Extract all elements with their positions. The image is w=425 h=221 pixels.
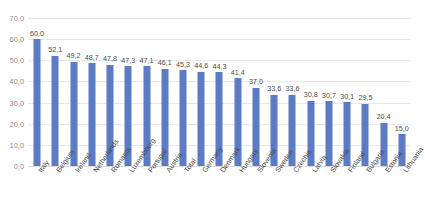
x-axis-tick: Bulgaria bbox=[356, 168, 374, 221]
bar-slot: 15,0 bbox=[393, 18, 411, 166]
bar[interactable] bbox=[198, 72, 205, 166]
bar-slot: 33,6 bbox=[283, 18, 301, 166]
x-axis-category-labels: ItalyBelgiumIrelandNetherlandsRomaniaLux… bbox=[28, 168, 411, 221]
chart-title bbox=[0, 0, 414, 11]
bar-value-label: 37,0 bbox=[249, 77, 263, 86]
bar-value-label: 46,1 bbox=[158, 58, 172, 67]
bar[interactable] bbox=[34, 39, 41, 166]
bar-slot: 44,6 bbox=[192, 18, 210, 166]
bar-slot: 20,4 bbox=[375, 18, 393, 166]
x-axis-tick: Netherlands bbox=[83, 168, 101, 221]
x-axis-tick: Belgium bbox=[46, 168, 64, 221]
bar-slot: 30,7 bbox=[320, 18, 338, 166]
bar-slot: 30,8 bbox=[302, 18, 320, 166]
y-axis-tick-label: 40,0 bbox=[0, 77, 24, 86]
y-axis-tick-label: 20,0 bbox=[0, 119, 24, 128]
bar-value-label: 60,0 bbox=[30, 29, 44, 38]
bar-value-label: 29,5 bbox=[358, 93, 372, 102]
bar-series: 60,052,149,248,747,847,347,146,145,344,6… bbox=[28, 18, 411, 166]
bar-value-label: 45,3 bbox=[176, 60, 190, 69]
x-axis-tick: Hungary bbox=[229, 168, 247, 221]
bar-value-label: 20,4 bbox=[377, 112, 391, 121]
bar-slot: 60,0 bbox=[28, 18, 46, 166]
bar-slot: 41,4 bbox=[229, 18, 247, 166]
bar-value-label: 47,8 bbox=[103, 54, 117, 63]
bar[interactable] bbox=[52, 56, 59, 166]
x-axis-tick: Luxembourg bbox=[119, 168, 137, 221]
bar-value-label: 30,1 bbox=[340, 92, 354, 101]
bar-value-label: 47,3 bbox=[121, 56, 135, 65]
y-axis-tick-label: 30,0 bbox=[0, 98, 24, 107]
bar-value-label: 47,1 bbox=[140, 56, 154, 65]
bar[interactable] bbox=[88, 63, 95, 166]
x-axis-tick: Ireland bbox=[64, 168, 82, 221]
bar-slot: 47,3 bbox=[119, 18, 137, 166]
x-axis-tick: Slovakia bbox=[320, 168, 338, 221]
x-axis-tick: Finland bbox=[338, 168, 356, 221]
x-axis-tick: Sweden bbox=[265, 168, 283, 221]
bar-value-label: 44,3 bbox=[212, 62, 226, 71]
x-axis-tick: Estonia bbox=[375, 168, 393, 221]
x-axis-tick: Italy bbox=[28, 168, 46, 221]
plot-area: 60,052,149,248,747,847,347,146,145,344,6… bbox=[28, 18, 411, 166]
bar-value-label: 49,2 bbox=[67, 51, 81, 60]
bar-value-label: 44,6 bbox=[194, 61, 208, 70]
bar-value-label: 30,8 bbox=[304, 90, 318, 99]
x-axis-tick: Total bbox=[174, 168, 192, 221]
bar-value-label: 33,6 bbox=[267, 84, 281, 93]
x-axis-tick: Germany bbox=[192, 168, 210, 221]
bar-slot: 44,3 bbox=[210, 18, 228, 166]
y-axis-tick-label: 10,0 bbox=[0, 140, 24, 149]
bar[interactable] bbox=[180, 70, 187, 166]
y-axis-tick-label: 0,0 bbox=[0, 162, 24, 171]
bar-slot: 49,2 bbox=[64, 18, 82, 166]
x-axis-tick: Romania bbox=[101, 168, 119, 221]
bar-slot: 48,7 bbox=[83, 18, 101, 166]
y-axis-tick-label: 60,0 bbox=[0, 35, 24, 44]
bar-slot: 29,5 bbox=[356, 18, 374, 166]
bar-value-label: 33,6 bbox=[285, 84, 299, 93]
bar-slot: 33,6 bbox=[265, 18, 283, 166]
bar-value-label: 41,4 bbox=[231, 68, 245, 77]
bar-value-label: 52,1 bbox=[48, 45, 62, 54]
bar-slot: 46,1 bbox=[156, 18, 174, 166]
bar-value-label: 30,7 bbox=[322, 91, 336, 100]
bar-value-label: 15,0 bbox=[395, 124, 409, 133]
x-axis-tick: Portugal bbox=[137, 168, 155, 221]
x-axis-tick: Czechia bbox=[283, 168, 301, 221]
y-axis-tick-label: 70,0 bbox=[0, 14, 24, 23]
x-axis-tick: Austria bbox=[156, 168, 174, 221]
y-axis-tick-label: 50,0 bbox=[0, 56, 24, 65]
x-axis-tick: Slovenia bbox=[247, 168, 265, 221]
bar-slot: 37,0 bbox=[247, 18, 265, 166]
bar-slot: 30,1 bbox=[338, 18, 356, 166]
x-axis-tick: Lithuania bbox=[393, 168, 411, 221]
bar-value-label: 48,7 bbox=[85, 53, 99, 62]
x-axis-tick: Denmark bbox=[210, 168, 228, 221]
bar-slot: 45,3 bbox=[174, 18, 192, 166]
bar-slot: 52,1 bbox=[46, 18, 64, 166]
x-axis-tick: Latvia bbox=[302, 168, 320, 221]
